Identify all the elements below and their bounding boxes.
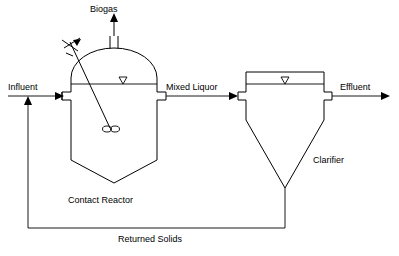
returned-solids-label: Returned Solids [118,234,182,245]
mixed-liquor-arrow-head [229,92,238,100]
mixer-motor-arrow-head [73,39,81,46]
process-flow-diagram: Biogas Influent Mixed Liquor Effluent Co… [0,0,399,256]
biogas-stack-pipe [110,36,118,49]
clarifier-body [246,72,324,92]
diagram-canvas [0,0,399,256]
influent-label: Influent [8,82,38,93]
influent-arrow-head [55,92,64,100]
reactor-left-wall [62,92,166,183]
mixed-liquor-label: Mixed Liquor [166,82,218,93]
effluent-arrow-head [381,92,390,100]
returned-solids-arrow-head [24,96,32,105]
effluent-label: Effluent [340,82,370,93]
contact-reactor-label: Contact Reactor [68,195,133,206]
biogas-label: Biogas [90,4,118,15]
clarifier-inlet-nozzle [238,92,332,188]
water-level-triangle-icon-clarifier [281,77,289,84]
reactor-dome [71,48,157,92]
mixer-shaft [70,42,110,128]
water-level-triangle-icon-reactor [119,77,127,84]
clarifier-label: Clarifier [313,155,344,166]
